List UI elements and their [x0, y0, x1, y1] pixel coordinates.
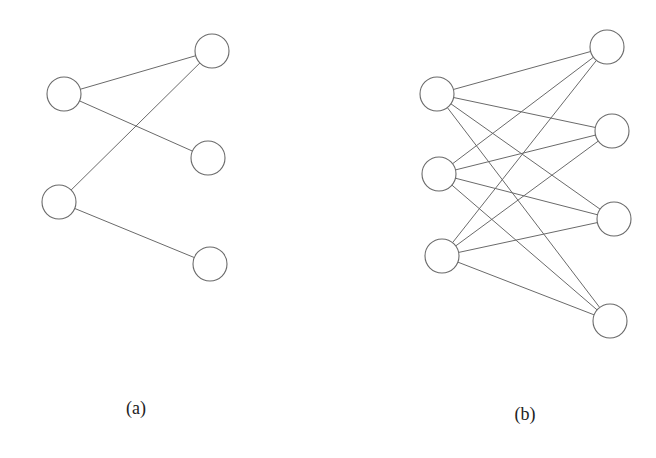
edge-b_L2-b_R3 [455, 178, 597, 215]
node-b_R2 [595, 114, 629, 148]
graph-b-nodes [420, 30, 631, 338]
edge-b_L2-b_R1 [453, 57, 594, 163]
edge-b_L1-b_R1 [453, 52, 590, 90]
node-a_R2 [191, 141, 225, 175]
edge-a_L2-a_R1 [71, 63, 200, 190]
node-b_L2 [422, 157, 456, 191]
node-a_R1 [195, 34, 229, 68]
edge-b_L1-b_R4 [447, 108, 599, 308]
graph-a-nodes [42, 34, 229, 281]
edge-b_L3-b_R1 [453, 60, 597, 242]
edge-b_L2-b_R2 [455, 135, 595, 170]
node-a_L2 [42, 185, 76, 219]
graph-a-caption: (a) [126, 398, 146, 419]
graph-b: (b) [420, 30, 631, 425]
edge-b_L3-b_R3 [459, 223, 598, 253]
edge-b_L3-b_R4 [458, 262, 594, 315]
graph-a-edges [71, 56, 200, 258]
node-b_L3 [425, 239, 459, 273]
edge-a_L2-a_R3 [75, 208, 195, 257]
node-b_R1 [590, 30, 624, 64]
node-b_L1 [420, 77, 454, 111]
node-a_R3 [193, 247, 227, 281]
edge-b_L1-b_R2 [454, 98, 596, 128]
node-b_R3 [597, 202, 631, 236]
node-a_L1 [47, 77, 81, 111]
edge-b_L3-b_R2 [456, 141, 599, 246]
graph-a: (a) [42, 34, 229, 419]
edge-b_L2-b_R4 [452, 185, 597, 310]
node-b_R4 [593, 304, 627, 338]
graph-b-caption: (b) [515, 404, 536, 425]
bipartite-graph-figure: (a) (b) [0, 0, 656, 458]
graph-b-edges [447, 52, 600, 315]
